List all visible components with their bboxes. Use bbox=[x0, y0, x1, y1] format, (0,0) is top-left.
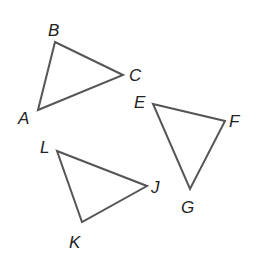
vertex-label-f: F bbox=[229, 112, 241, 131]
vertex-label-l: L bbox=[40, 138, 49, 157]
triangle-abc-shape bbox=[38, 42, 123, 110]
triangle-abc: A B C bbox=[17, 21, 142, 128]
vertex-label-c: C bbox=[129, 66, 142, 85]
vertex-label-a: A bbox=[17, 109, 29, 128]
vertex-label-e: E bbox=[134, 93, 146, 112]
triangles-diagram: A B C E F G L J K bbox=[0, 0, 262, 272]
triangle-ljk: L J K bbox=[40, 138, 160, 252]
vertex-label-k: K bbox=[69, 233, 81, 252]
triangle-efg: E F G bbox=[134, 93, 241, 217]
triangle-efg-shape bbox=[153, 104, 225, 189]
vertex-label-b: B bbox=[48, 21, 59, 40]
vertex-label-j: J bbox=[150, 178, 160, 197]
vertex-label-g: G bbox=[181, 198, 194, 217]
triangle-ljk-shape bbox=[57, 151, 147, 222]
